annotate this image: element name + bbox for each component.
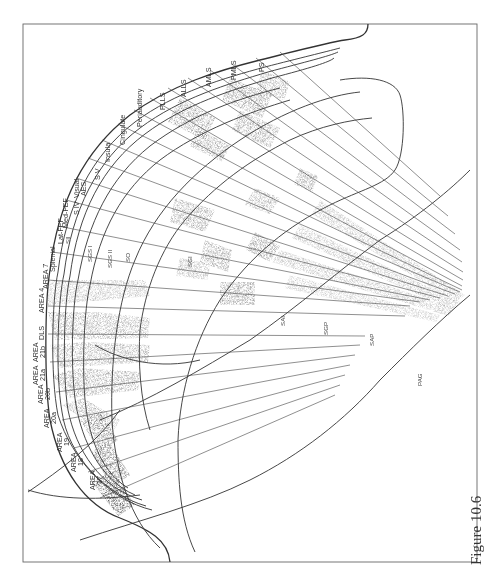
label-sgi: SGI: [186, 256, 193, 267]
label-pag: PAG: [416, 373, 423, 386]
label-s-v: S V: [93, 168, 102, 180]
figure-caption: Figure 10.6: [468, 505, 488, 565]
label-alls: ALLS: [179, 79, 188, 97]
superior-colliculus-projection-diagram: AREA17 AREA18 AREA19 AREA20a AREA20b ARE…: [0, 0, 503, 586]
label-area19-num: 19: [62, 438, 71, 446]
label-cingulate: Cingulate: [118, 115, 127, 145]
label-area4: AREA 4: [37, 288, 46, 313]
label-amls: AMLS: [204, 67, 213, 87]
label-sgs1: SGS I: [86, 245, 93, 262]
label-dls: DLS: [37, 326, 46, 340]
label-sgs2: SGS II: [106, 249, 113, 268]
label-area21b-num: 21b: [38, 346, 47, 358]
label-s-iv: S IV: [72, 201, 81, 215]
label-area20b-num: 20b: [43, 388, 52, 400]
label-splenial: Splenial: [48, 246, 57, 272]
label-ps: PS: [257, 62, 266, 72]
label-insula: Insula: [103, 143, 112, 162]
label-area18-num: 18: [76, 458, 85, 466]
label-sgp: SGP: [322, 322, 329, 335]
label-area17-num: 17: [95, 476, 104, 484]
label-med-fef: Med-FEF: [61, 197, 70, 228]
label-pmls: PMLS: [229, 60, 238, 80]
label-sii: SII: [64, 236, 71, 244]
label-area21a-num: 21a: [38, 369, 47, 381]
label-sai: SAI: [279, 316, 286, 326]
label-visual-aes-2: AES: [79, 181, 88, 196]
label-plls: PLLS: [158, 92, 167, 110]
label-area20a-num: 20a: [49, 412, 58, 424]
label-periauditory: Periauditory: [135, 88, 144, 127]
label-so: SO: [124, 253, 131, 262]
label-sap: SAP: [368, 334, 375, 346]
